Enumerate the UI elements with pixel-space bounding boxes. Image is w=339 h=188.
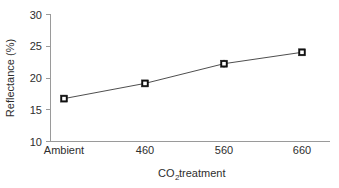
y-tick-label-1: 15 (30, 104, 42, 116)
y-tick-label-3: 25 (30, 40, 42, 52)
y-tick-labels: 30 25 20 15 10 (30, 9, 42, 148)
data-point-0 (61, 95, 68, 102)
x-axis-title-main: CO (158, 167, 175, 179)
chart-canvas: 30 25 20 15 10 Ambient 460 560 660 (0, 0, 339, 188)
data-point-2 (221, 60, 228, 67)
y-tick-label-2: 20 (30, 72, 42, 84)
x-tick-labels: Ambient 460 560 660 (44, 144, 311, 156)
x-tick-label-0: Ambient (44, 144, 84, 156)
y-axis-title: Reflectance (%) (4, 39, 16, 117)
x-tick-label-3: 660 (293, 144, 311, 156)
data-point-3 (299, 49, 306, 56)
x-axis-title-rest: treatment (179, 167, 225, 179)
y-tick-label-4: 30 (30, 9, 42, 21)
y-tick-label-0: 10 (30, 136, 42, 148)
series-line-reflectance (64, 52, 302, 98)
x-tick-label-2: 560 (215, 144, 233, 156)
chart-figure: 30 25 20 15 10 Ambient 460 560 660 (0, 0, 339, 188)
x-tick-label-1: 460 (136, 144, 154, 156)
x-axis-title: CO 2 treatment (158, 167, 225, 182)
data-point-1 (142, 80, 149, 87)
y-tick-marks (46, 15, 51, 142)
